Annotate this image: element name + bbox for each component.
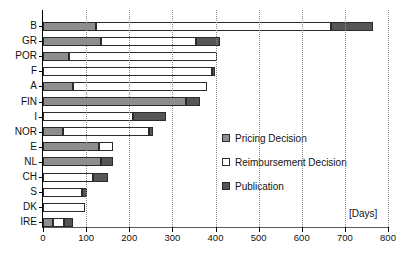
x-tick-label-800: 800 [368, 232, 404, 243]
gridline-800 [388, 10, 390, 227]
bar-segment-FIN-publication [186, 97, 200, 106]
bar-segment-S-reimburse [43, 188, 82, 197]
horizontal-stacked-bar-chart: BGRPORFAFININORENLCHSDKIRE Pricing Decis… [0, 0, 404, 259]
legend-item-pricing-decision: Pricing Decision [222, 128, 402, 148]
x-tick-label-0: 0 [23, 232, 63, 243]
bar-segment-GR-reimburse [101, 37, 196, 46]
bar-segment-E-reimburse [99, 142, 113, 151]
legend-item-publication: Publication [222, 176, 402, 196]
chart-legend: Pricing Decision Reimbursement Decision … [222, 128, 402, 200]
gridline-100 [86, 10, 88, 227]
x-tick-label-500: 500 [239, 232, 279, 243]
x-tick-label-600: 600 [282, 232, 322, 243]
bar-segment-NOR-publication [149, 127, 152, 136]
bar-segment-B-reimburse [96, 22, 331, 31]
y-axis-label-NOR: NOR [15, 127, 37, 137]
bar-segment-POR-reimburse [69, 52, 217, 61]
legend-item-reimbursement-decision: Reimbursement Decision [222, 152, 402, 172]
bar-segment-I-publication [133, 112, 166, 121]
bar-segment-NL-pricing [43, 157, 101, 166]
bar-segment-B-publication [331, 22, 373, 31]
y-axis-label-S: S [30, 187, 37, 197]
bar-segment-CH-publication [93, 173, 108, 182]
gridline-300 [172, 10, 174, 227]
x-tick-label-700: 700 [325, 232, 365, 243]
bar-segment-DK-reimburse [43, 203, 85, 212]
y-axis-label-FIN: FIN [21, 97, 37, 107]
y-axis-label-B: B [30, 21, 37, 31]
y-axis-label-I: I [34, 112, 37, 122]
bar-segment-NOR-reimburse [63, 127, 149, 136]
bar-segment-GR-pricing [43, 37, 101, 46]
bar-segment-NOR-pricing [43, 127, 63, 136]
x-tick-label-200: 200 [109, 232, 149, 243]
y-axis-label-POR: POR [15, 51, 37, 61]
gridline-600 [302, 10, 304, 227]
bar-segment-IRE-publication [64, 218, 73, 227]
y-axis-label-A: A [30, 81, 37, 91]
bar-segment-A-pricing [43, 82, 73, 91]
bar-segment-E-pricing [43, 142, 99, 151]
x-tick-label-300: 300 [152, 232, 192, 243]
y-axis-tick-labels: BGRPORFAFININORENLCHSDKIRE [0, 0, 39, 259]
y-axis-label-NL: NL [24, 157, 37, 167]
bar-segment-F-reimburse [43, 67, 212, 76]
legend-label-pricing-decision: Pricing Decision [235, 133, 307, 144]
x-tick-label-400: 400 [196, 232, 236, 243]
legend-label-reimbursement-decision: Reimbursement Decision [235, 157, 347, 168]
legend-swatch-publication-icon [222, 182, 230, 190]
x-tick-label-100: 100 [66, 232, 106, 243]
y-axis-label-F: F [31, 66, 37, 76]
bar-segment-IRE-reimburse [53, 218, 64, 227]
bar-segment-IRE-pricing [43, 218, 53, 227]
gridline-700 [345, 10, 347, 227]
bar-segment-FIN-pricing [43, 97, 186, 106]
bar-segment-POR-pricing [43, 52, 69, 61]
y-axis-label-DK: DK [23, 202, 37, 212]
gridline-500 [259, 10, 261, 227]
y-axis-label-E: E [30, 142, 37, 152]
bar-segment-NL-publication [101, 157, 113, 166]
bar-segment-A-reimburse [73, 82, 207, 91]
y-axis-label-GR: GR [22, 36, 37, 46]
gridline-400 [216, 10, 218, 227]
gridline-200 [129, 10, 131, 227]
y-axis-label-IRE: IRE [20, 217, 37, 227]
y-axis-label-CH: CH [23, 172, 37, 182]
x-axis-units-label: [Days] [349, 208, 377, 219]
legend-swatch-reimbursement-icon [222, 158, 230, 166]
legend-swatch-pricing-icon [222, 134, 230, 142]
cropped-caption [8, 250, 248, 258]
